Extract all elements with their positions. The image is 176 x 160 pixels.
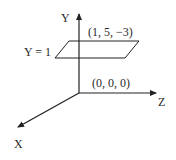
coordinate-diagram: Y Z X Y = 1 (1, 5, −3) (0, 0, 0) [0, 0, 176, 160]
origin-label: (0, 0, 0) [92, 76, 130, 90]
x-axis [18, 93, 79, 127]
y-axis-label: Y [61, 11, 70, 25]
plane-y1 [55, 41, 139, 58]
z-axis-label: Z [158, 95, 165, 109]
point-label: (1, 5, −3) [88, 25, 133, 39]
x-axis-label: X [14, 137, 23, 151]
plane-label: Y = 1 [24, 45, 51, 59]
